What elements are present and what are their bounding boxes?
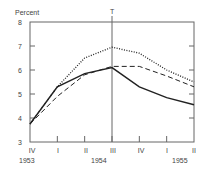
x-tick-label: I	[48, 147, 68, 154]
year-label-1955: 1955	[172, 157, 188, 164]
y-tick-label: 3	[15, 139, 25, 146]
x-tick-label: IV	[131, 147, 151, 154]
year-label-1954: 1954	[91, 157, 107, 164]
y-axis-label: Percent	[15, 9, 39, 16]
x-tick-label: IV	[22, 147, 42, 154]
x-tick-label: III	[103, 147, 123, 154]
x-tick-label: II	[184, 147, 204, 154]
x-tick-label: I	[157, 147, 177, 154]
y-tick-label: 4	[15, 115, 25, 122]
x-tick-label: II	[76, 147, 96, 154]
y-tick-label: 5	[15, 91, 25, 98]
y-tick-label: 6	[15, 67, 25, 74]
reference-line-label: T	[110, 8, 114, 15]
year-label-1953: 1953	[19, 157, 35, 164]
y-tick-label: 8	[15, 19, 25, 26]
y-tick-label: 7	[15, 43, 25, 50]
